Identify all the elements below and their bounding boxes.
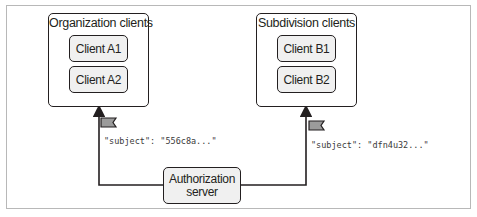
token-icon-left: [101, 118, 116, 127]
server-label-line1: Authorization: [169, 173, 235, 186]
group-title: Subdivision clients: [257, 16, 356, 30]
subdivision-clients-group: Subdivision clients Client B1 Client B2: [256, 13, 357, 107]
client-a1-box: Client A1: [69, 35, 128, 62]
authorization-server-box: Authorization server: [163, 167, 241, 204]
client-b2-box: Client B2: [277, 66, 336, 93]
client-a2-box: Client A2: [69, 66, 128, 93]
arrow-to-subdivision-clients: [241, 111, 306, 185]
subject-label-left: "subject": "556c8a...": [104, 136, 217, 146]
group-title: Organization clients: [49, 16, 148, 30]
server-label-line2: server: [169, 186, 235, 199]
organization-clients-group: Organization clients Client A1 Client A2: [48, 13, 149, 107]
client-b1-box: Client B1: [277, 35, 336, 62]
subject-label-right: "subject": "dfn4u32...": [311, 140, 429, 150]
token-icon-right: [309, 121, 324, 130]
